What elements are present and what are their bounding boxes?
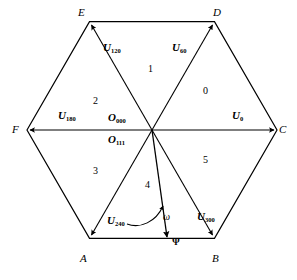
vector-label-u0: U0	[232, 110, 243, 121]
vector-subscript-u120: 120	[111, 47, 121, 54]
vector-base-u0: U	[232, 109, 240, 121]
sector-label-1: 1	[148, 64, 153, 74]
rotation-arc-omega	[127, 206, 163, 226]
vector-subscript-u300: 300	[205, 216, 215, 223]
vector-label-u180: U180	[58, 110, 76, 121]
flux-vector-label-psi: Ψ	[172, 237, 180, 247]
vector-base-u60: U	[172, 41, 180, 53]
vector-base-u240: U	[107, 214, 115, 226]
sector-label-3: 3	[93, 166, 98, 176]
vertex-label-b: B	[212, 253, 219, 264]
vertex-label-e: E	[78, 7, 85, 18]
vector-label-o111: O111	[108, 134, 125, 145]
vector-label-u120: U120	[103, 42, 121, 53]
vector-base-u120: U	[103, 41, 111, 53]
vector-base-u180: U	[58, 109, 66, 121]
vertex-label-d: D	[213, 7, 221, 18]
vector-label-u60: U60	[172, 42, 186, 53]
space-vector-hexagon-figure: E D F C A B 0 1 2 3 4 5 U0 U60 U120 U180…	[0, 0, 297, 280]
vector-subscript-o000: 000	[116, 117, 126, 124]
vector-base-o000: O	[108, 111, 116, 123]
vector-subscript-u180: 180	[66, 115, 76, 122]
vector-subscript-u0: 0	[240, 115, 243, 122]
vector-label-u240: U240	[107, 215, 125, 226]
vector-label-u300: U300	[197, 211, 215, 222]
vector-base-u300: U	[197, 210, 205, 222]
vector-subscript-u60: 60	[180, 47, 187, 54]
sector-label-2: 2	[93, 96, 98, 106]
sector-label-0: 0	[203, 86, 208, 96]
vector-subscript-o111: 111	[116, 139, 125, 146]
vector-subscript-u240: 240	[115, 220, 125, 227]
sector-label-5: 5	[203, 155, 208, 165]
hexagon-diagram-canvas	[0, 0, 297, 280]
vertex-label-f: F	[12, 124, 19, 135]
vertex-label-a: A	[80, 253, 87, 264]
sector-label-4: 4	[145, 180, 150, 190]
vector-base-o111: O	[108, 133, 116, 145]
vector-line-u60	[152, 25, 213, 130]
vector-label-o000: O000	[108, 112, 126, 123]
angular-velocity-label-omega: ω	[163, 212, 170, 222]
vertex-label-c: C	[279, 124, 286, 135]
